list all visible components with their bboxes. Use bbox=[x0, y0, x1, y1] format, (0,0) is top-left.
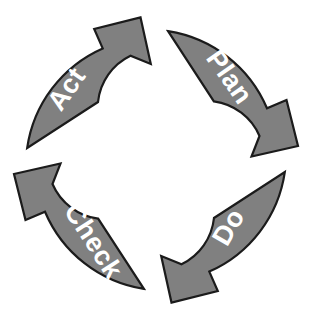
pdca-cycle-diagram: Plan Do Check Act bbox=[0, 0, 312, 319]
arrow-group-do: Do bbox=[161, 172, 285, 303]
arrow-group-plan: Plan bbox=[168, 31, 298, 156]
arrow-group-act: Act bbox=[27, 17, 151, 148]
pdca-diagram-canvas: Plan Do Check Act bbox=[0, 0, 312, 319]
arrow-group-check: Check bbox=[14, 164, 144, 289]
